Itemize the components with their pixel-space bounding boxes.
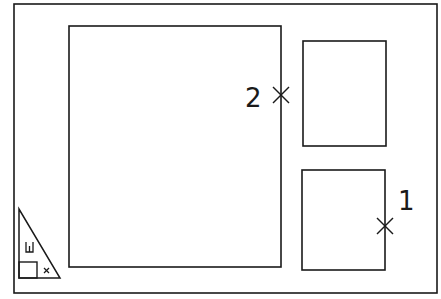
bottom-right-viewport-rect[interactable] — [302, 170, 385, 270]
drawing-canvas[interactable]: 2 1 — [0, 0, 441, 299]
main-viewport-rect[interactable] — [69, 26, 281, 267]
paper-frame — [14, 4, 437, 293]
pick-point-2-label: 2 — [245, 83, 262, 113]
ucs-triangle-icon — [19, 209, 60, 278]
top-right-viewport-rect[interactable] — [303, 41, 386, 146]
pick-point-1-label: 1 — [398, 186, 415, 216]
drawing-svg: 2 1 — [0, 0, 441, 299]
